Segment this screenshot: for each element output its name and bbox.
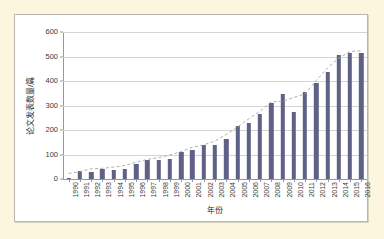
x-axis-tick-label: 2002: [207, 182, 214, 198]
bar-slot: [266, 32, 277, 179]
x-axis-tick-label: 2001: [195, 182, 202, 198]
bar[interactable]: [292, 112, 296, 179]
bar[interactable]: [89, 172, 93, 179]
bar-slot: [176, 32, 187, 179]
y-axis-title: 论文发表数量/篇: [25, 32, 37, 179]
y-axis-tick-label: 200: [45, 126, 58, 134]
x-axis-tick-mark: [91, 179, 92, 182]
x-axis-tick-label: 2005: [241, 182, 248, 198]
bar-slot: [209, 32, 220, 179]
bar[interactable]: [224, 139, 228, 179]
bar[interactable]: [168, 159, 172, 179]
bar-slot: [153, 32, 164, 179]
bar[interactable]: [314, 83, 318, 179]
bar[interactable]: [111, 170, 115, 179]
x-axis-tick-mark: [305, 179, 306, 182]
x-axis-tick-label: 1993: [105, 182, 112, 198]
bar-slot: [108, 32, 119, 179]
bar[interactable]: [348, 53, 352, 179]
bar[interactable]: [190, 150, 194, 179]
figure-container: 论文发表数量/篇 0100200300400500600 19901991199…: [0, 0, 384, 239]
x-axis-tick-mark: [147, 179, 148, 182]
x-axis-tick-label: 1992: [94, 182, 101, 198]
x-axis-tick-label: 2008: [274, 182, 281, 198]
x-axis-tick-label: 1998: [162, 182, 169, 198]
bar[interactable]: [134, 164, 138, 179]
x-axis-tick-label: 2016: [364, 182, 371, 198]
x-axis-tick-mark: [316, 179, 317, 182]
bar[interactable]: [100, 169, 104, 179]
y-axis-tick-label: 300: [45, 102, 58, 110]
x-axis-tick-label: 2012: [319, 182, 326, 198]
x-axis-tick-mark: [226, 179, 227, 182]
bar[interactable]: [303, 92, 307, 179]
bar[interactable]: [235, 126, 239, 179]
x-axis-tick-mark: [181, 179, 182, 182]
x-axis-tick-mark: [260, 179, 261, 182]
x-axis-tick-mark: [136, 179, 137, 182]
bar-slot: [299, 32, 310, 179]
x-axis-title: 年份: [63, 207, 367, 215]
bar[interactable]: [269, 103, 273, 179]
bar[interactable]: [179, 152, 183, 179]
x-axis-tick-label: 2004: [229, 182, 236, 198]
bar-slot: [232, 32, 243, 179]
bar-slot: [131, 32, 142, 179]
y-axis-tick-label: 400: [45, 77, 58, 85]
x-axis-tick-label: 2013: [331, 182, 338, 198]
x-axis-tick-mark: [114, 179, 115, 182]
bar-slot: [221, 32, 232, 179]
bar[interactable]: [337, 55, 341, 179]
bar[interactable]: [280, 94, 284, 179]
x-axis-tick-label: 2000: [184, 182, 191, 198]
x-axis-tick-mark: [350, 179, 351, 182]
bar[interactable]: [145, 160, 149, 179]
bar[interactable]: [156, 160, 160, 179]
x-axis-tick-label: 1996: [139, 182, 146, 198]
x-axis-tick-label: 2011: [308, 182, 315, 197]
y-axis-tick-label: 100: [45, 151, 58, 159]
x-axis-tick-label: 1994: [117, 182, 124, 198]
bar[interactable]: [359, 53, 363, 179]
x-axis-tick-label: 1990: [72, 182, 79, 198]
y-axis-tick-label: 0: [54, 175, 58, 183]
x-axis-tick-mark: [238, 179, 239, 182]
x-axis-tick-mark: [215, 179, 216, 182]
bar-slot: [288, 32, 299, 179]
x-axis-tick-label: 2007: [263, 182, 270, 198]
x-axis-tick-label: 2010: [297, 182, 304, 198]
bar-slot: [187, 32, 198, 179]
x-axis-tick-mark: [80, 179, 81, 182]
bar[interactable]: [247, 123, 251, 179]
bar-slot: [356, 32, 367, 179]
bar-slot: [63, 32, 74, 179]
bar[interactable]: [213, 145, 217, 179]
x-axis-tick-mark: [170, 179, 171, 182]
bar[interactable]: [325, 72, 329, 179]
bar[interactable]: [202, 145, 206, 179]
bar-slot: [311, 32, 322, 179]
bar-slot: [142, 32, 153, 179]
x-axis-tick-mark: [328, 179, 329, 182]
x-axis-tick-label: 2015: [353, 182, 360, 198]
x-axis-tick-mark: [283, 179, 284, 182]
y-axis-title-text: 论文发表数量/篇: [27, 76, 35, 134]
bar-slot: [198, 32, 209, 179]
x-axis-tick-label: 1997: [150, 182, 157, 198]
x-axis-tick-label: 2006: [252, 182, 259, 198]
bar[interactable]: [258, 114, 262, 179]
bar-slot: [344, 32, 355, 179]
bar-slot: [254, 32, 265, 179]
x-axis-tick-mark: [339, 179, 340, 182]
bar-slot: [86, 32, 97, 179]
bar[interactable]: [78, 171, 82, 179]
bar-slot: [74, 32, 85, 179]
bar-slot: [97, 32, 108, 179]
x-axis-tick-mark: [204, 179, 205, 182]
x-axis-tick-mark: [294, 179, 295, 182]
x-axis-tick-label: 2009: [286, 182, 293, 198]
x-axis-tick-mark: [102, 179, 103, 182]
bar[interactable]: [123, 169, 127, 179]
bar-series: [63, 32, 367, 179]
x-axis-tick-mark: [249, 179, 250, 182]
